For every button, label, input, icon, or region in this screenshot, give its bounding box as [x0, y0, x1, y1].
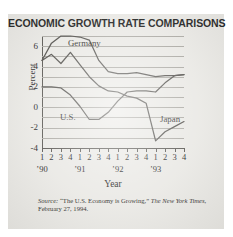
chart-title: ECONOMIC GROWTH RATE COMPARISONS: [8, 17, 224, 29]
x-axis-year-label: ’90: [30, 164, 54, 174]
y-axis-title: Percent: [27, 47, 37, 107]
x-axis-year-label: ’91: [68, 164, 92, 174]
source-label: Source:: [38, 197, 58, 204]
x-axis-line: [42, 148, 184, 149]
x-axis-year-label: ’92: [106, 164, 130, 174]
x-axis-title: Year: [42, 179, 184, 189]
series-label-us: U.S.: [60, 112, 76, 122]
series-lines: [42, 36, 184, 148]
x-axis-year-label: ’93: [144, 164, 168, 174]
series-label-japan: Japan: [160, 114, 180, 124]
series-line-germany: [42, 36, 184, 77]
series-label-germany: Germany: [68, 38, 101, 48]
series-line-japan: [42, 52, 184, 141]
plot-area: [42, 36, 184, 148]
source-article: “The U.S. Economy is Growing,”: [60, 197, 149, 204]
y-axis-tick-label: -2: [22, 122, 38, 132]
source-note: Source: “The U.S. Economy is Growing,” T…: [38, 197, 208, 214]
x-axis-quarter-label: 4: [178, 152, 190, 162]
source-publication: The New York Times: [151, 197, 205, 204]
figure-panel: ECONOMIC GROWTH RATE COMPARISONS 6420-2-…: [8, 14, 224, 229]
y-axis-tick-label: -4: [22, 143, 38, 153]
